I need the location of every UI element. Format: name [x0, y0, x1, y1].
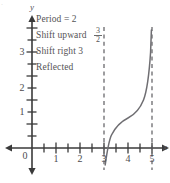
- origin-label: 0: [18, 150, 32, 161]
- annotation-period: Period = 2: [36, 14, 77, 24]
- fraction-denominator: 2: [92, 36, 104, 44]
- x-tick-label-4: 4: [121, 153, 135, 164]
- annotation-shift-right: Shift right 3: [36, 46, 83, 56]
- y-tick-label-3: 3: [15, 46, 29, 57]
- annotation-shift-upward: Shift upward: [36, 30, 87, 40]
- annotation-reflected: Reflected: [36, 62, 73, 72]
- x-tick-label-2: 2: [73, 153, 87, 164]
- x-tick-label-3: 3: [97, 153, 111, 164]
- x-tick-label-1: 1: [49, 153, 63, 164]
- y-axis-label: y: [30, 2, 34, 12]
- y-tick-label-1: 1: [15, 106, 29, 117]
- x-tick-label-5: 5: [145, 153, 159, 164]
- x-axis-label: x: [163, 142, 167, 152]
- fraction-three-halves: 3 2: [92, 27, 104, 45]
- y-tick-label-2: 2: [15, 82, 29, 93]
- fraction-numerator: 3: [92, 27, 104, 35]
